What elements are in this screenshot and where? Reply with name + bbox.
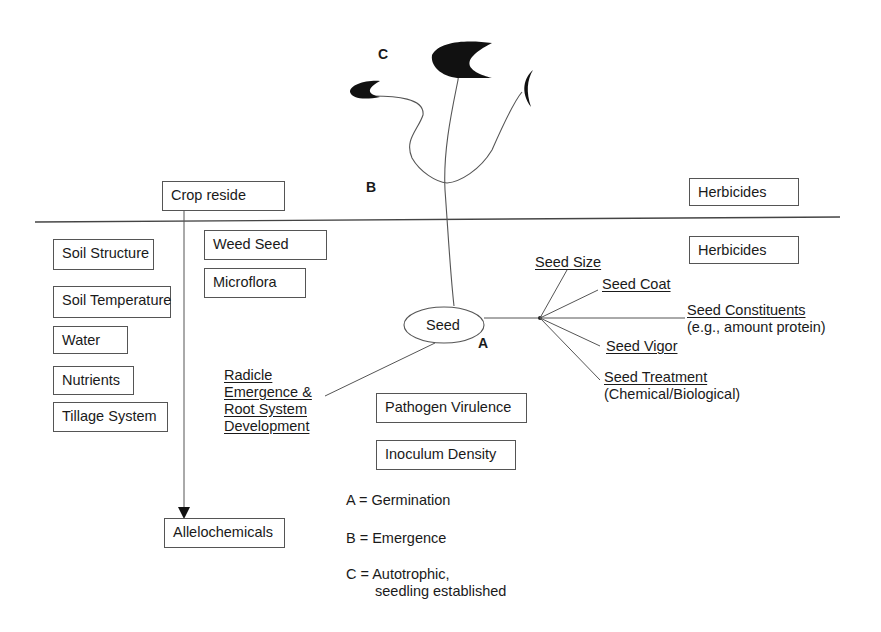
- herbicides-above-box: Herbicides: [689, 178, 799, 206]
- crop-residue-box: Crop reside: [162, 181, 285, 211]
- water-box: Water: [53, 326, 128, 354]
- seed-coat-label: Seed Coat: [602, 276, 671, 293]
- stage-marker-c: C: [378, 46, 388, 62]
- tillage-system-box: Tillage System: [53, 402, 168, 432]
- seed-label: Seed: [426, 317, 460, 333]
- legend-c-line2: seedling established: [375, 583, 506, 600]
- seed-constituents-label: Seed Constituents: [687, 302, 806, 319]
- leaf-large-icon: [432, 41, 492, 78]
- leaf-crescent-icon: [524, 70, 533, 107]
- weed-seed-box: Weed Seed: [204, 230, 327, 260]
- radicle-line-1: Radicle: [224, 367, 272, 384]
- nutrients-box: Nutrients: [53, 366, 134, 395]
- leaf-small-icon: [350, 81, 380, 99]
- radicle-line-4: Development: [224, 418, 309, 435]
- soil-surface-line: [35, 217, 840, 222]
- allelochemicals-box: Allelochemicals: [164, 518, 285, 548]
- legend-a: A = Germination: [346, 492, 450, 509]
- radicle-line-3: Root System: [224, 401, 307, 418]
- legend-b: B = Emergence: [346, 530, 446, 547]
- stage-marker-a: A: [478, 335, 488, 351]
- pathogen-virulence-box: Pathogen Virulence: [376, 393, 527, 423]
- seed-size-label: Seed Size: [535, 254, 601, 271]
- soil-structure-box: Soil Structure: [53, 239, 154, 270]
- legend-c: C = Autotrophic,: [346, 566, 450, 583]
- seed-treatment-label: Seed Treatment: [604, 369, 707, 386]
- radicle-line: [325, 343, 435, 396]
- soil-temperature-box: Soil Temperature: [53, 286, 171, 318]
- seed-constituents-note: (e.g., amount protein): [687, 319, 826, 336]
- radicle-line-2: Emergence &: [224, 384, 312, 401]
- herbicides-below-box: Herbicides: [689, 236, 799, 264]
- stage-marker-b: B: [366, 179, 376, 195]
- seed-treatment-note: (Chemical/Biological): [604, 386, 740, 403]
- microflora-box: Microflora: [204, 268, 306, 298]
- seed-vigor-label: Seed Vigor: [606, 338, 677, 355]
- seedling-factors-diagram: C B A Crop reside Herbicides Soil Struct…: [0, 0, 881, 632]
- inoculum-density-box: Inoculum Density: [376, 440, 516, 470]
